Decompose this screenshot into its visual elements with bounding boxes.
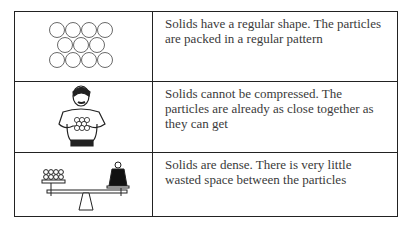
image-cell xyxy=(15,12,153,81)
description-text: Solids are dense. There is very little w… xyxy=(153,153,397,217)
strongman-icon xyxy=(53,84,113,150)
table-row: Solids are dense. There is very little w… xyxy=(15,152,397,217)
image-cell xyxy=(15,153,153,217)
image-cell xyxy=(15,82,153,152)
description-text: Solids cannot be compressed. The particl… xyxy=(153,82,397,152)
particle-lattice-icon xyxy=(49,22,119,70)
table-row: Solids cannot be compressed. The particl… xyxy=(15,81,397,152)
table-row: Solids have a regular shape. The particl… xyxy=(15,12,397,81)
balance-scale-icon xyxy=(41,160,131,212)
clipped-caption xyxy=(14,226,143,231)
properties-table: Solids have a regular shape. The particl… xyxy=(14,11,398,217)
description-text: Solids have a regular shape. The particl… xyxy=(153,12,397,81)
